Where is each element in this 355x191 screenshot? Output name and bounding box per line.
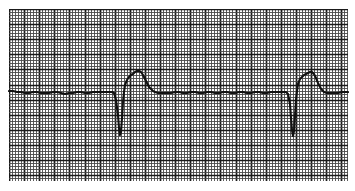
ecg-graph-paper-canvas bbox=[0, 0, 355, 191]
ecg-rhythm-strip bbox=[0, 0, 355, 191]
